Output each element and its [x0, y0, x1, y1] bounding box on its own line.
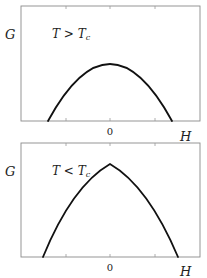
x-tick-label-zero: 0: [107, 126, 113, 137]
condition-label: T > Tc: [52, 27, 91, 42]
figure: G T > Tc 0 H G T < Tc 0 H: [0, 0, 207, 278]
x-tick-label-zero: 0: [107, 262, 113, 273]
g-curve-smooth: [48, 64, 172, 121]
y-axis-label: G: [5, 27, 15, 42]
y-axis-label: G: [5, 164, 15, 179]
panel-top: G T > Tc 0 H: [5, 6, 200, 144]
x-axis-label: H: [179, 264, 192, 278]
panel-bottom: G T < Tc 0 H: [5, 143, 200, 278]
x-axis-label: H: [179, 129, 192, 144]
condition-label: T < Tc: [52, 164, 91, 179]
plot-frame: [21, 143, 200, 257]
